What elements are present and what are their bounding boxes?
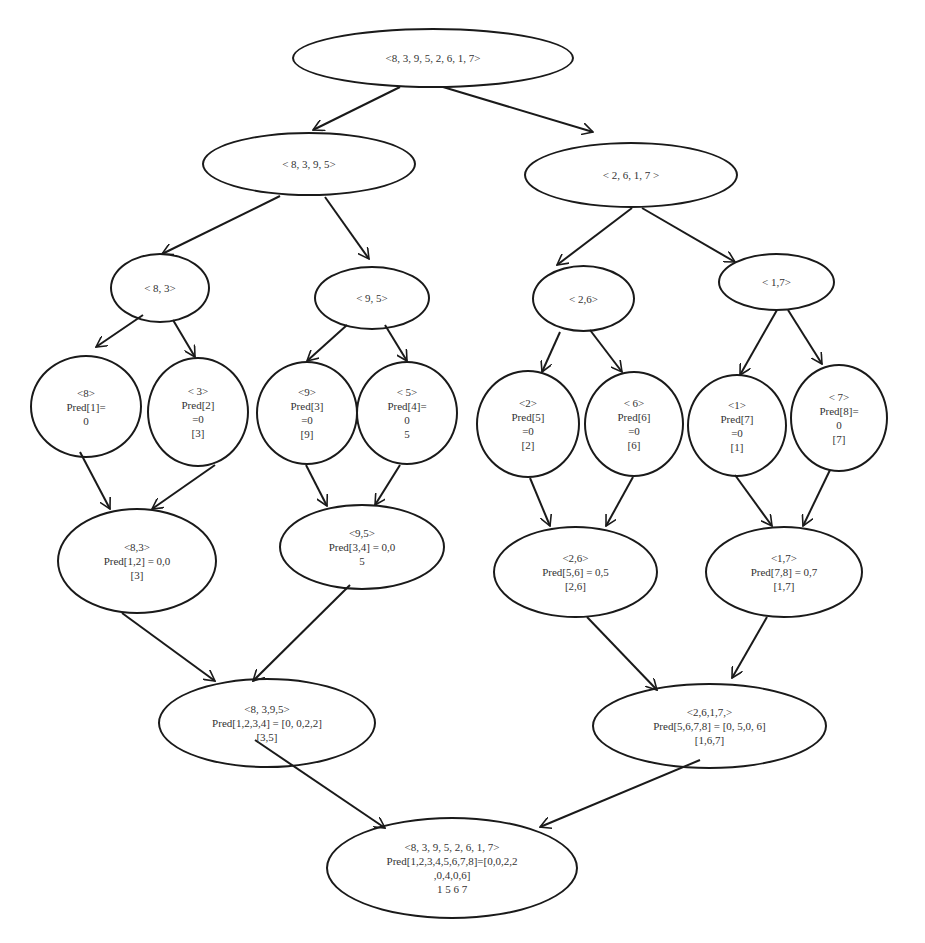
edge-right-r26 [557,208,632,265]
node-label: Pred[7,8] = 0,7 [751,565,818,579]
node-label: < 7> [829,390,850,404]
edge-r17-leaf7 [788,310,822,364]
node-label: < 8, 3, 9, 5> [282,157,336,171]
edge-m17-m2617 [732,617,767,678]
node-root: <8, 3, 9, 5, 2, 6, 1, 7> [292,28,574,88]
node-label: Pred[3] [291,399,324,413]
node-label: Pred[3,4] = 0,0 [329,540,396,554]
node-label: Pred[4]= [387,399,426,413]
node-merge-2-6: <2,6> Pred[5,6] = 0,5 [2,6] [493,526,658,618]
node-label: =0 [628,424,640,438]
node-label: Pred[5,6,7,8] = [0, 5,0, 6] [653,719,766,733]
node-label: Pred[1,2,3,4,5,6,7,8]=[0,0,2,2 [387,854,518,868]
node-label: <2,6> [562,551,588,565]
edge-m83-m8395 [122,613,215,681]
node-label: 1 5 6 7 [437,882,467,896]
node-merge-2-6-1-7: <2,6,1,7,> Pred[5,6,7,8] = [0, 5,0, 6] [… [592,683,827,769]
node-label: < 6> [624,396,645,410]
edge-m26-m2617 [587,617,657,690]
edge-root-left [313,87,400,130]
edge-r26-leaf6 [590,330,622,372]
node-leaf-2: <2> Pred[5] =0 [2] [476,370,580,478]
node-label: <8, 3, 9, 5, 2, 6, 1, 7> [386,51,481,65]
node-label: Pred[5] [512,410,545,424]
node-label: Pred[7] [721,412,754,426]
node-label: =0 [522,424,534,438]
node-label: 5 [359,554,365,568]
node-label: =0 [301,413,313,427]
node-pair-8-3: < 8, 3> [110,253,210,323]
node-label: [3,5] [256,730,277,744]
edge-leaf6-m26 [606,477,633,526]
node-merge-8-3-9-5: <8, 3,9,5> Pred[1,2,3,4] = [0, 0,2,2] [3… [158,678,376,768]
edge-l95-leaf5 [385,325,407,361]
node-leaf-7: < 7> Pred[8]= 0 [7] [790,364,888,472]
node-label: <8> [77,386,95,400]
edge-left-l83 [162,196,280,254]
node-pair-9-5: < 9, 5> [314,266,430,330]
edge-leaf1-m17 [735,475,772,526]
node-leaf-1: <1> Pred[7] =0 [1] [687,374,787,477]
node-label: Pred[8]= [819,404,858,418]
node-leaf-8: <8> Pred[1]= 0 [30,355,142,458]
node-label: Pred[5,6] = 0,5 [542,565,609,579]
node-pair-1-7: < 1,7> [718,253,835,311]
node-label: <1,7> [771,551,797,565]
node-label: < 3> [188,384,209,398]
node-final-merge: <8, 3, 9, 5, 2, 6, 1, 7> Pred[1,2,3,4,5,… [326,817,578,919]
node-leaf-9: <9> Pred[3] =0 [9] [256,361,358,465]
node-leaf-6: < 6> Pred[6] =0 [6] [584,371,684,477]
edge-l83-leaf3 [173,320,195,357]
node-label: 0 [836,418,842,432]
node-label: ,0,4,0,6] [434,868,471,882]
node-label: =0 [192,412,204,426]
node-label: < 1,7> [762,275,791,289]
edge-r26-leaf2 [542,332,560,372]
node-label: Pred[6] [618,410,651,424]
node-leaf-5: < 5> Pred[4]= 0 5 [356,361,458,465]
node-label: [7] [833,432,846,446]
edge-leaf9-m95 [306,465,327,506]
node-merge-9-5: <9,5> Pred[3,4] = 0,0 5 [279,504,445,590]
node-label: < 8, 3> [144,281,176,295]
node-label: [3] [131,568,144,582]
edge-right-r17 [642,208,735,262]
node-label: [1] [731,440,744,454]
node-label: [3] [192,426,205,440]
edge-leaf7-m17 [803,470,830,526]
node-label: <1> [728,398,746,412]
node-label: 5 [404,427,410,441]
node-label: Pred[1,2] = 0,0 [104,554,171,568]
node-label: Pred[2] [182,398,215,412]
edge-l83-leaf8 [96,315,143,347]
edge-left-l95 [325,197,369,259]
node-label: [1,7] [773,579,794,593]
node-label: < 9, 5> [356,291,388,305]
node-label: [1,6,7] [695,733,724,747]
node-left-half: < 8, 3, 9, 5> [202,132,416,196]
node-label: < 2, 6, 1, 7 > [603,168,659,182]
node-label: <2> [519,396,537,410]
node-label: <9> [298,385,316,399]
node-label: Pred[1]= [66,400,105,414]
edge-leaf3-m83 [152,465,215,509]
edge-l95-leaf9 [307,325,347,361]
node-label: [6] [628,438,641,452]
node-label: <8, 3, 9, 5, 2, 6, 1, 7> [405,840,500,854]
node-right-half: < 2, 6, 1, 7 > [524,142,738,208]
node-label: [2,6] [565,579,586,593]
node-label: Pred[1,2,3,4] = [0, 0,2,2] [212,716,322,730]
node-label: =0 [731,426,743,440]
edge-leaf2-m26 [530,478,550,526]
edge-leaf5-m95 [375,465,400,505]
edge-r17-leaf1 [740,310,777,375]
edges-layer [0,0,925,943]
node-pair-2-6: < 2,6> [532,265,635,332]
edge-leaf8-m83 [80,452,110,509]
edge-root-right [443,87,593,132]
node-label: <8, 3,9,5> [244,702,289,716]
node-label: <8,3> [124,540,150,554]
node-label: <2,6,1,7,> [687,705,732,719]
node-label: [9] [301,427,314,441]
node-label: <9,5> [349,526,375,540]
